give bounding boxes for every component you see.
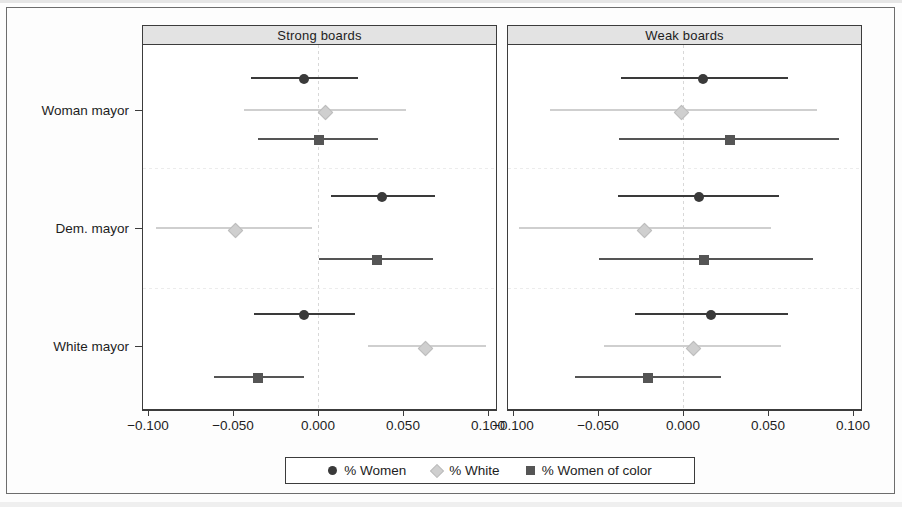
scan-edge-top: [0, 0, 902, 3]
estimate-marker-square: [253, 373, 263, 383]
estimate-row: [508, 103, 861, 117]
x-axis-line: [507, 410, 862, 411]
estimate-row: [143, 71, 496, 85]
x-axis-tick: [403, 410, 404, 416]
y-axis-tick: [135, 228, 142, 229]
estimate-marker-diamond: [418, 340, 434, 356]
legend-label: % White: [449, 463, 499, 478]
legend-item-diamond[interactable]: % White: [432, 463, 499, 478]
legend-item-circle[interactable]: % Women: [328, 463, 406, 478]
estimate-marker-circle: [706, 310, 716, 320]
x-axis-tick-label: −0.100: [492, 418, 534, 433]
legend-marker-square-icon: [526, 466, 535, 475]
panel-title-weak: Weak boards: [507, 25, 862, 45]
estimate-marker-circle: [299, 74, 309, 84]
x-axis-tick-label: 0.000: [301, 418, 335, 433]
estimate-row: [508, 252, 861, 266]
panel-weak: Weak boards: [507, 25, 862, 410]
y-axis-label-woman-mayor: Woman mayor: [41, 103, 129, 118]
legend-marker-circle-icon: [328, 466, 337, 475]
panel-strong: Strong boards: [142, 25, 497, 410]
plot-area-strong: [142, 45, 497, 410]
x-axis-tick-label: 0.000: [666, 418, 700, 433]
estimate-marker-diamond: [686, 340, 702, 356]
estimate-row: [143, 339, 496, 353]
y-axis-tick: [135, 346, 142, 347]
x-axis-tick: [768, 410, 769, 416]
legend-label: % Women: [344, 463, 406, 478]
y-axis-label-white-mayor: White mayor: [53, 339, 129, 354]
x-axis-tick-label: 0.050: [386, 418, 420, 433]
estimate-row: [508, 189, 861, 203]
estimate-row: [508, 132, 861, 146]
estimate-marker-square: [699, 255, 709, 265]
legend-label: % Women of color: [542, 463, 652, 478]
estimate-row: [508, 370, 861, 384]
coefficient-plot-figure: Woman mayorDem. mayorWhite mayor Strong …: [0, 0, 902, 507]
estimate-marker-square: [372, 255, 382, 265]
scan-edge-bottom: [0, 502, 902, 507]
x-axis-tick-label: −0.050: [212, 418, 254, 433]
estimate-row: [143, 221, 496, 235]
estimate-row: [143, 370, 496, 384]
y-axis-tick: [135, 110, 142, 111]
estimate-row: [143, 103, 496, 117]
x-axis-tick-label: −0.100: [127, 418, 169, 433]
group-separator: [508, 168, 861, 169]
estimate-row: [143, 132, 496, 146]
x-axis-tick: [233, 410, 234, 416]
group-separator: [508, 288, 861, 289]
x-axis-weak: −0.100−0.0500.0000.0500.100: [507, 410, 862, 444]
x-axis-tick: [853, 410, 854, 416]
estimate-row: [143, 189, 496, 203]
x-axis-line: [142, 410, 497, 411]
x-axis-strong: −0.100−0.0500.0000.0500.100: [142, 410, 497, 444]
estimate-row: [143, 307, 496, 321]
estimate-marker-diamond: [674, 104, 690, 120]
group-separator: [143, 168, 496, 169]
x-axis-tick: [318, 410, 319, 416]
estimate-marker-circle: [299, 310, 309, 320]
estimate-row: [508, 221, 861, 235]
estimate-marker-circle: [377, 192, 387, 202]
x-axis-tick-label: 0.100: [836, 418, 870, 433]
plot-area-weak: [507, 45, 862, 410]
estimate-marker-diamond: [227, 222, 243, 238]
x-axis-tick: [598, 410, 599, 416]
estimate-marker-circle: [694, 192, 704, 202]
estimate-row: [508, 307, 861, 321]
estimate-marker-square: [725, 135, 735, 145]
legend-item-square[interactable]: % Women of color: [526, 463, 652, 478]
estimate-marker-square: [314, 135, 324, 145]
estimate-marker-square: [643, 373, 653, 383]
x-axis-tick: [488, 410, 489, 416]
panel-title-strong: Strong boards: [142, 25, 497, 45]
group-separator: [143, 288, 496, 289]
x-axis-tick-label: 0.050: [751, 418, 785, 433]
y-axis-label-dem-mayor: Dem. mayor: [55, 221, 129, 236]
estimate-row: [143, 252, 496, 266]
x-axis-tick: [683, 410, 684, 416]
legend-marker-diamond-icon: [430, 463, 444, 477]
estimate-marker-circle: [698, 74, 708, 84]
estimate-marker-diamond: [636, 222, 652, 238]
x-axis-tick-label: −0.050: [577, 418, 619, 433]
legend: % Women% White% Women of color: [285, 457, 695, 484]
estimate-row: [508, 71, 861, 85]
estimate-marker-diamond: [317, 104, 333, 120]
x-axis-tick: [513, 410, 514, 416]
x-axis-tick: [148, 410, 149, 416]
estimate-row: [508, 339, 861, 353]
